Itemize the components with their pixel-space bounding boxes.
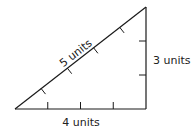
base-ticks	[48, 102, 114, 109]
hypotenuse-ticks	[41, 27, 124, 94]
hypotenuse-side	[15, 7, 146, 109]
vertical-label: 3 units	[153, 54, 191, 67]
vertical-ticks	[139, 41, 146, 75]
base-label: 4 units	[62, 116, 100, 129]
hypotenuse-label: 5 units	[57, 36, 95, 69]
triangle-diagram: 5 units 3 units 4 units	[0, 0, 192, 134]
